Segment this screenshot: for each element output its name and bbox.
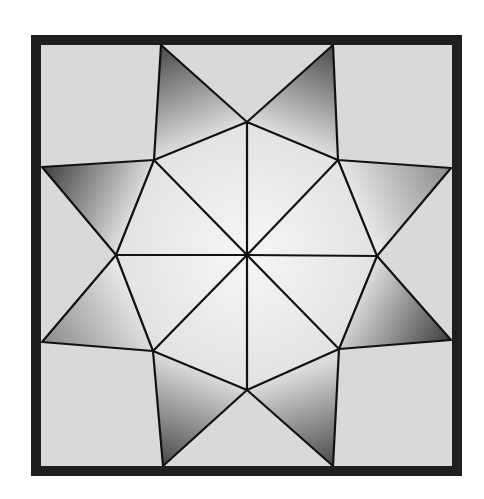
star-quilt-diagram [0,0,484,499]
